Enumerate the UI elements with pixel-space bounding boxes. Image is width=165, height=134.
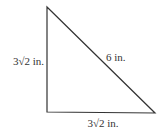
right-triangle [47,7,155,113]
bottom-leg-label: 3√2 in. [87,117,118,129]
left-leg-label: 3√2 in. [13,55,44,67]
triangle-diagram: 3√2 in. 6 in. 3√2 in. [0,0,165,134]
hypotenuse-label: 6 in. [106,51,126,63]
